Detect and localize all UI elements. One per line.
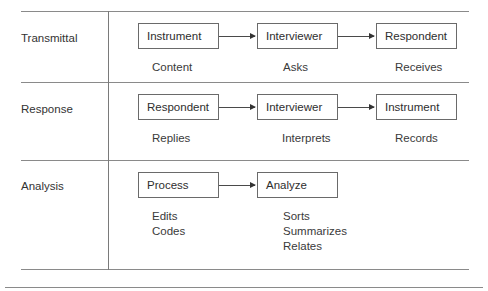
arrow-icon [219,107,255,108]
step-description: Receives [395,60,442,75]
row-label: Analysis [21,180,64,192]
flow-box: Instrument [138,23,219,49]
table-bottom-rule [21,269,469,270]
step-description: Asks [283,60,308,75]
flow-box: Respondent [138,94,219,120]
arrow-icon [219,185,255,186]
step-description: Content [152,60,192,75]
row-divider-1 [21,82,469,83]
step-description: Replies [152,131,190,146]
flow-box: Interviewer [257,94,338,120]
flow-box: Analyze [257,172,338,198]
row-divider-2 [21,160,469,161]
row-label: Transmittal [21,32,77,44]
step-description: Codes [152,224,185,239]
arrow-icon [219,36,255,37]
flow-box: Interviewer [257,23,338,49]
step-description: Summarizes [283,224,347,239]
column-divider [108,11,109,270]
row-label: Response [21,103,73,115]
step-description: Edits [152,209,178,224]
step-description: Sorts [283,209,310,224]
page-bottom-rule [5,287,483,288]
flow-box: Process [138,172,219,198]
step-description: Interprets [282,131,331,146]
arrow-icon [338,107,374,108]
step-description: Relates [283,239,322,254]
flow-box: Respondent [376,23,457,49]
step-description: Records [395,131,438,146]
arrow-icon [338,36,374,37]
flow-box: Instrument [376,94,457,120]
table-top-rule [21,11,469,12]
